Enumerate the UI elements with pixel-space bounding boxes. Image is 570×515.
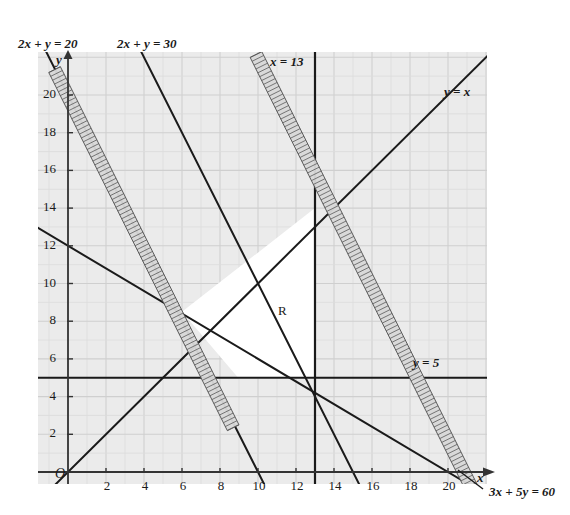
region-label-r: R (278, 303, 287, 319)
x-axis-arrow (483, 468, 495, 477)
constraint-line-2x-y-30 (141, 52, 359, 484)
band-hatch (467, 487, 479, 493)
x-tick-label: 18 (403, 478, 419, 494)
line-label-x-equals-13: x = 13 (270, 54, 303, 70)
origin-label: O (55, 466, 65, 482)
x-tick-label: 20 (441, 478, 457, 494)
y-tick-label: 8 (26, 312, 56, 328)
constraint-line-y-x (56, 56, 487, 484)
y-tick-label: 10 (26, 275, 56, 291)
x-tick-label: 14 (327, 478, 343, 494)
y-tick-label: 20 (26, 86, 56, 102)
y-axis-name: y (56, 52, 62, 68)
line-label-2x-plus-y-30: 2x + y = 30 (117, 36, 177, 52)
y-tick-label: 4 (26, 388, 56, 404)
band-hatch (470, 494, 482, 500)
x-tick-label: 8 (213, 478, 229, 494)
y-tick-label: 18 (26, 124, 56, 140)
x-axis-name: x (477, 470, 484, 486)
graph-canvas (0, 0, 570, 515)
y-tick-label: 12 (26, 237, 56, 253)
line-label-3x-plus-5y-60: 3x + 5y = 60 (489, 484, 555, 500)
x-tick-label: 16 (365, 478, 381, 494)
y-tick-label: 16 (26, 161, 56, 177)
x-tick-label: 10 (251, 478, 267, 494)
y-tick-label: 2 (26, 425, 56, 441)
band-hatch (469, 491, 481, 497)
y-tick-label: 14 (26, 199, 56, 215)
line-label-y-equals-x: y = x (444, 84, 470, 100)
line-label-y-equals-5: y = 5 (413, 355, 439, 371)
graph-figure: 2x + y = 20 2x + y = 30 x = 13 y = x y =… (0, 0, 570, 515)
x-tick-label: 2 (99, 478, 115, 494)
x-tick-label: 6 (175, 478, 191, 494)
y-tick-label: 6 (26, 350, 56, 366)
line-label-2x-plus-y-20: 2x + y = 20 (18, 36, 78, 52)
x-tick-label: 12 (289, 478, 305, 494)
x-tick-label: 4 (137, 478, 153, 494)
